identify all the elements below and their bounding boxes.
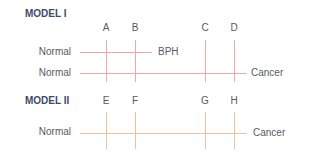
checkpoint-g-line: [205, 112, 206, 149]
checkpoint-d-label: D: [230, 22, 237, 33]
model2-row-end-label: Cancer: [253, 127, 285, 138]
checkpoint-e-line: [106, 112, 107, 149]
checkpoint-a-label: A: [103, 22, 110, 33]
checkpoint-b-label: B: [132, 22, 139, 33]
model2-row-start-label: Normal: [39, 126, 71, 137]
checkpoint-b-line: [135, 40, 136, 82]
checkpoint-h-line: [234, 112, 235, 149]
checkpoint-f-line: [135, 112, 136, 149]
normal-to-bph-line: [80, 52, 152, 53]
checkpoint-c-line: [205, 40, 206, 82]
checkpoint-c-label: C: [201, 22, 208, 33]
checkpoint-h-label: H: [230, 95, 237, 106]
checkpoint-e-label: E: [103, 95, 110, 106]
row2-end-label: Cancer: [251, 67, 283, 78]
checkpoint-d-line: [234, 40, 235, 82]
checkpoint-a-line: [106, 40, 107, 82]
checkpoint-g-label: G: [201, 95, 209, 106]
model-1-title: MODEL I: [25, 8, 66, 19]
row1-start-label: Normal: [39, 46, 71, 57]
row1-end-label: BPH: [158, 46, 179, 57]
model-2-title: MODEL II: [25, 95, 69, 106]
checkpoint-f-label: F: [132, 95, 138, 106]
row2-start-label: Normal: [39, 67, 71, 78]
